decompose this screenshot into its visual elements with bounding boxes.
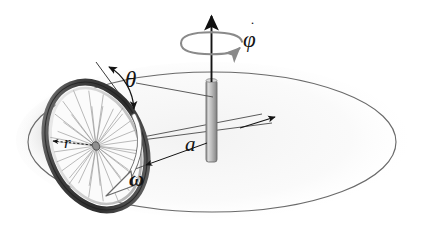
distance-label: a (185, 134, 196, 155)
theta-label: θ (125, 68, 136, 91)
omega-label: ω (129, 169, 144, 190)
radius-label: r (64, 134, 71, 151)
phi-dot-accent: ˙ (250, 20, 255, 35)
diagram-canvas (0, 0, 428, 237)
vertical-shaft-post (206, 79, 217, 162)
physics-diagram-figure: θ φ ˙ a r ω (0, 0, 428, 237)
phi-dot-label: φ ˙ (243, 28, 256, 51)
